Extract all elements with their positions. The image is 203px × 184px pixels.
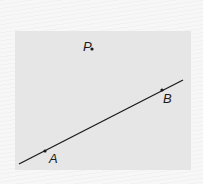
geometry-diagram: ABP bbox=[0, 0, 203, 184]
point-b-label: B bbox=[163, 91, 172, 106]
point-a-label: A bbox=[48, 151, 58, 166]
point-p-label: P bbox=[83, 39, 92, 54]
points-layer: ABP bbox=[43, 39, 172, 166]
point-a-dot bbox=[43, 149, 46, 152]
